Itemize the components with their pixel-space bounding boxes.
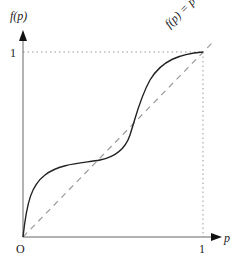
- y-axis-label: f(p): [10, 10, 27, 22]
- diagonal-line: [23, 42, 213, 237]
- chart-canvas: [0, 0, 243, 264]
- x-tick-1: 1: [199, 243, 205, 255]
- x-axis-arrow-icon: [211, 233, 222, 241]
- x-axis-label: p: [224, 232, 230, 244]
- y-tick-1: 1: [10, 47, 16, 59]
- y-axis-arrow-icon: [19, 30, 27, 41]
- origin-label: O: [16, 243, 25, 255]
